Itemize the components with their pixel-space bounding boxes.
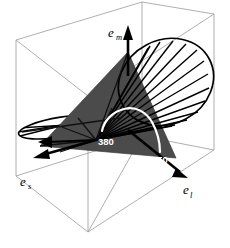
wavelength-label-650: 650 <box>152 154 168 165</box>
wavelength-label-380: 380 <box>98 136 114 147</box>
axis-label-s-symbol: e <box>20 174 26 189</box>
axis-label-m: e m <box>108 25 122 42</box>
chromaticity-cone-figure: e m e s e l 380 650 <box>0 0 230 248</box>
arrowhead-s <box>33 149 50 159</box>
axis-label-m-symbol: e <box>108 25 114 40</box>
axis-label-s-subscript: s <box>28 181 32 191</box>
axis-label-l: e l <box>183 182 193 200</box>
arrowhead-m <box>123 25 133 40</box>
axis-label-l-symbol: e <box>183 182 189 197</box>
axis-label-s: e s <box>20 174 32 191</box>
axis-label-m-subscript: m <box>116 32 122 42</box>
axis-label-l-subscript: l <box>190 190 193 200</box>
arrowhead-l <box>172 168 188 178</box>
figure-canvas: e m e s e l 380 650 <box>0 0 230 248</box>
